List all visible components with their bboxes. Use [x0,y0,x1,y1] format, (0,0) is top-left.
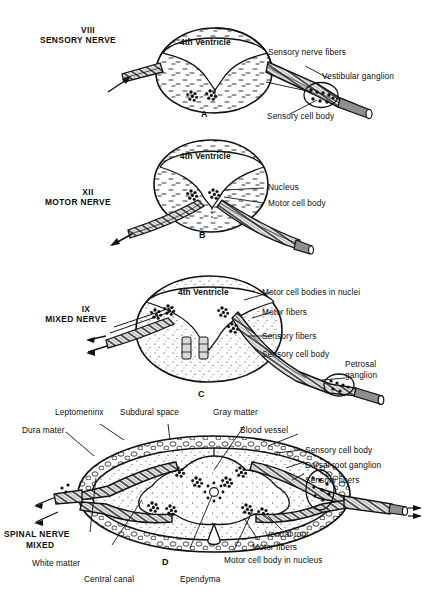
panel-b-fourth-ventricle-label: 4th Ventricle [180,152,231,162]
panel-b-nerve-heading-line2: MOTOR NERVE [18,198,138,208]
panel-d-nerve-heading-line1: SPINAL NERVE [4,530,114,540]
anatomy-illustration [0,0,431,600]
panel-d-dorsal-root-ganglion-label: Dorsal root ganglion [305,461,381,471]
panel-d-central-canal-label: Central canal [84,575,134,585]
panel-d-subdural-space-label: Subdural space [120,408,179,418]
panel-d-motor-cell-body-nucleus-label: Motor cell body in nucleus [224,556,323,566]
panel-a-fourth-ventricle-label: 4th Ventricle [180,38,231,48]
panel-d-nerve-heading-line2: MIXED [26,541,96,551]
panel-d-white-matter-label: White matter [32,559,80,569]
panel-c-sensory-fibers-label: Sensory fibers [262,332,316,342]
panel-c-fourth-ventricle-label: 4th Ventricle [178,288,229,298]
panel-d-dura-mater-label: Dura mater [22,426,65,436]
panel-c-motor-cell-bodies-label: Motor cell bodies in nuclei [262,288,360,298]
panel-d-leptomeninx-label: Leptomeninx [55,408,104,418]
panel-d-ventral-root-label: Ventral root [265,530,309,540]
panel-c-letter: C [198,390,205,400]
panel-a-letter: A [201,110,208,120]
panel-c-nerve-heading-line2: MIXED NERVE [14,315,138,325]
panel-a-sensory-nerve-fibers-label: Sensory nerve fibers [268,48,346,58]
panel-d-blood-vessel-label: Blood vessel [240,426,288,436]
panel-c-sensory-cell-body-label: Sensory cell body [262,350,329,360]
anatomy-figure: VIII SENSORY NERVE 4th Ventricle Sensory… [0,0,431,600]
panel-c-petrosal-label: Petrosal [345,360,376,370]
panel-b-letter: B [199,231,206,241]
panel-d-sensory-cell-body-label: Sensory cell body [305,446,372,456]
panel-d-sensory-fibers-label: Sensory fibers [305,476,359,486]
panel-d-gray-matter-label: Gray matter [213,408,258,418]
panel-a-sensory-cell-body-label: Sensory cell body [267,112,334,122]
panel-b-motor-cell-body-label: Motor cell body [268,199,326,209]
panel-c-motor-fibers-label: Motor fibers [262,308,307,318]
panel-a-vestibular-ganglion-label: Vestibular ganglion [322,72,394,82]
panel-d-ependyma-label: Ependyma [180,575,220,585]
panel-d-motor-fibers-label: Motor fibers [252,543,297,553]
panel-b-nucleus-label: Nucleus [268,183,299,193]
panel-c-ganglion-label: ganglion [345,371,377,381]
panel-a-nerve-heading-line2: SENSORY NERVE [18,36,138,46]
panel-d-letter: D [162,558,169,568]
